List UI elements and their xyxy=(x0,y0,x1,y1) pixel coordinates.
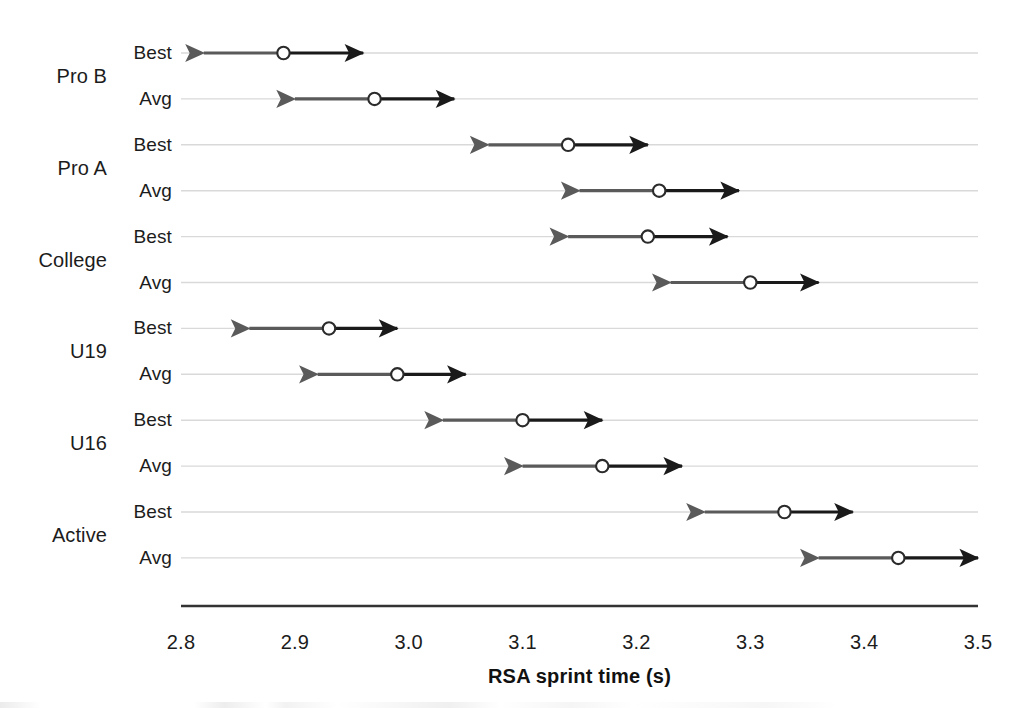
data-point-marker xyxy=(642,230,654,242)
row-label-u16-best: Best xyxy=(134,409,172,431)
data-point-marker xyxy=(562,139,574,151)
row-label-active-avg: Avg xyxy=(139,547,172,569)
data-point-marker xyxy=(516,414,528,426)
row-label-u19-avg: Avg xyxy=(139,363,172,385)
data-point-marker xyxy=(653,185,665,197)
x-tick-label-2-8: 2.8 xyxy=(167,631,195,654)
x-tick-label-3-1: 3.1 xyxy=(508,631,536,654)
row-label-pro-a-best: Best xyxy=(134,134,172,156)
row-label-u16-avg: Avg xyxy=(139,455,172,477)
gridlines xyxy=(181,53,978,558)
scan-edge-artifact xyxy=(0,702,1021,708)
group-label-college: College xyxy=(38,248,107,271)
x-tick-label-3-0: 3.0 xyxy=(395,631,423,654)
data-series xyxy=(204,47,978,564)
x-tick-label-3-2: 3.2 xyxy=(622,631,650,654)
x-tick-label-3-4: 3.4 xyxy=(850,631,878,654)
data-point-marker xyxy=(778,506,790,518)
group-label-u19: U19 xyxy=(70,340,107,363)
group-label-active: Active xyxy=(52,523,107,546)
group-label-u16: U16 xyxy=(70,432,107,455)
rsa-sprint-time-chart: BestAvgBestAvgBestAvgBestAvgBestAvgBestA… xyxy=(0,0,1021,708)
row-label-pro-b-avg: Avg xyxy=(139,88,172,110)
x-axis-title: RSA sprint time (s) xyxy=(488,665,671,688)
row-label-college-avg: Avg xyxy=(139,272,172,294)
group-label-pro-b: Pro B xyxy=(56,64,107,87)
row-label-active-best: Best xyxy=(134,501,172,523)
group-label-pro-a: Pro A xyxy=(58,156,107,179)
x-tick-label-2-9: 2.9 xyxy=(281,631,309,654)
data-point-marker xyxy=(323,322,335,334)
row-label-college-best: Best xyxy=(134,226,172,248)
row-label-pro-b-best: Best xyxy=(134,42,172,64)
x-tick-label-3-5: 3.5 xyxy=(964,631,992,654)
data-point-marker xyxy=(368,93,380,105)
row-label-u19-best: Best xyxy=(134,317,172,339)
data-point-marker xyxy=(391,368,403,380)
x-tick-label-3-3: 3.3 xyxy=(736,631,764,654)
data-point-marker xyxy=(744,276,756,288)
data-point-marker xyxy=(596,460,608,472)
row-label-pro-a-avg: Avg xyxy=(139,180,172,202)
data-point-marker xyxy=(277,47,289,59)
data-point-marker xyxy=(892,552,904,564)
